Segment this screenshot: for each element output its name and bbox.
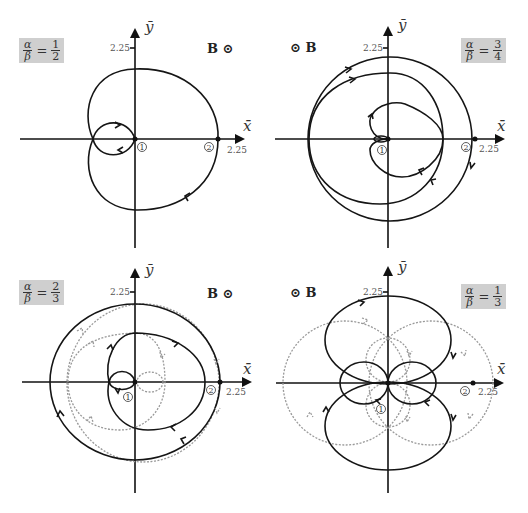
point-2-label: 2 bbox=[209, 386, 214, 395]
direction-arrow-icon bbox=[425, 400, 430, 406]
y-axis-label: ȳ bbox=[397, 16, 407, 34]
direction-arrow-icon bbox=[358, 300, 364, 306]
figure-canvas: 2.25 2.25 x̄ ȳ 1 2 2.25 2.25 x̄ ȳ bbox=[0, 0, 528, 513]
point-2-label: 2 bbox=[464, 143, 469, 152]
point-1-marker bbox=[386, 381, 391, 386]
direction-arrow-icon bbox=[323, 407, 329, 412]
direction-arrow-icon bbox=[468, 413, 473, 419]
direction-arrow-icon bbox=[118, 147, 123, 153]
magnetic-field-label: B ⊙ bbox=[207, 286, 233, 301]
point-1-label: 1 bbox=[380, 146, 385, 155]
y-axis-label: ȳ bbox=[144, 18, 154, 36]
y-tick-label: 2.25 bbox=[110, 43, 130, 53]
ratio-label-panel-1: αβ = 12 bbox=[19, 38, 64, 63]
ratio-label-panel-4: αβ = 13 bbox=[461, 284, 506, 309]
point-1-marker bbox=[133, 137, 138, 142]
direction-arrow-icon bbox=[431, 179, 436, 185]
equals-sign: = bbox=[36, 285, 47, 300]
equals-sign: = bbox=[478, 289, 489, 304]
x-axis-label: x̄ bbox=[243, 117, 252, 135]
point-2-marker bbox=[473, 137, 478, 142]
x-tick-label: 2.25 bbox=[227, 145, 247, 155]
direction-arrow-icon bbox=[470, 162, 475, 168]
ratio-denominator: 3 bbox=[494, 297, 501, 308]
equals-sign: = bbox=[36, 43, 47, 58]
equals-sign: = bbox=[478, 43, 489, 58]
beta-symbol: β bbox=[467, 51, 473, 62]
direction-arrow-icon bbox=[307, 412, 313, 417]
magnetic-field-label: B ⊙ bbox=[207, 41, 233, 56]
point-2-label: 2 bbox=[463, 387, 468, 396]
y-tick-label: 2.25 bbox=[110, 287, 130, 297]
point-1-marker bbox=[386, 137, 391, 142]
x-axis-label: x̄ bbox=[243, 360, 252, 378]
direction-arrow-icon bbox=[181, 437, 186, 444]
direction-arrow-icon bbox=[171, 424, 176, 431]
point-2-label: 2 bbox=[207, 143, 212, 152]
ratio-denominator: 2 bbox=[52, 51, 59, 62]
direction-arrow-icon bbox=[215, 408, 220, 413]
direction-arrow-icon bbox=[172, 341, 178, 347]
point-1-label: 1 bbox=[126, 393, 131, 402]
ratio-label-panel-2: αβ = 34 bbox=[461, 38, 506, 63]
direction-arrow-icon bbox=[376, 399, 381, 404]
ratio-denominator: 4 bbox=[494, 51, 501, 62]
ratio-label-panel-3: αβ = 23 bbox=[19, 280, 64, 305]
direction-arrow-icon bbox=[451, 352, 456, 358]
point-2-marker bbox=[216, 137, 221, 142]
x-axis-label: x̄ bbox=[497, 360, 506, 378]
direction-arrow-icon bbox=[57, 411, 64, 417]
direction-arrow-icon bbox=[107, 345, 113, 350]
magnetic-field-label: ⊙ B bbox=[290, 285, 316, 300]
y-tick-label: 2.25 bbox=[363, 43, 383, 53]
beta-symbol: β bbox=[467, 297, 473, 308]
x-tick-label: 2.25 bbox=[479, 144, 499, 154]
point-1-marker bbox=[133, 380, 138, 385]
x-axis-label: x̄ bbox=[497, 117, 506, 135]
point-1-label: 1 bbox=[379, 405, 384, 414]
ratio-denominator: 3 bbox=[52, 293, 59, 304]
x-tick-label: 2.25 bbox=[226, 387, 246, 397]
beta-symbol: β bbox=[25, 51, 31, 62]
point-1-label: 1 bbox=[140, 143, 145, 152]
direction-arrow-icon bbox=[160, 352, 165, 358]
y-axis-label: ȳ bbox=[397, 258, 407, 276]
trajectory-inner bbox=[370, 103, 443, 177]
y-axis-label: ȳ bbox=[144, 261, 154, 279]
trajectory-solid-inner bbox=[109, 372, 135, 390]
direction-arrow-icon bbox=[406, 416, 410, 422]
direction-arrow-icon bbox=[87, 416, 93, 422]
direction-arrow-icon bbox=[451, 414, 456, 420]
beta-symbol: β bbox=[25, 293, 31, 304]
direction-arrow-icon bbox=[77, 328, 83, 334]
point-2-marker bbox=[471, 381, 476, 386]
direction-arrow-icon bbox=[461, 350, 466, 356]
x-tick-label: 2.25 bbox=[478, 387, 498, 397]
point-2-marker bbox=[218, 380, 223, 385]
magnetic-field-label: ⊙ B bbox=[290, 40, 316, 55]
